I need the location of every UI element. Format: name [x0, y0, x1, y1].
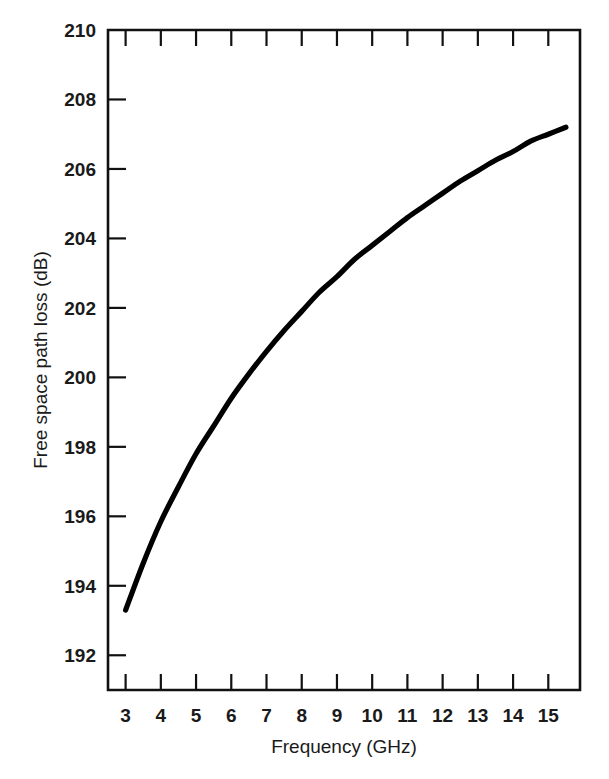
x-tick-label-15: 15 [538, 705, 560, 726]
x-axis-tick-labels: 3456789101112131415 [120, 705, 559, 726]
x-tick-label-8: 8 [296, 705, 307, 726]
x-tick-label-11: 11 [397, 705, 418, 726]
x-tick-label-12: 12 [432, 705, 453, 726]
x-tick-label-4: 4 [156, 705, 167, 726]
x-tick-label-3: 3 [120, 705, 131, 726]
y-tick-label-196: 196 [64, 506, 96, 527]
axis-box [108, 30, 580, 690]
x-axis-ticks [126, 30, 549, 690]
free-space-path-loss-curve [126, 127, 566, 610]
y-axis-tick-labels: 210208206204202200198196194192 [64, 20, 96, 666]
y-tick-label-198: 198 [64, 437, 96, 458]
y-tick-label-208: 208 [64, 89, 96, 110]
y-tick-label-192: 192 [64, 645, 96, 666]
x-tick-label-13: 13 [467, 705, 488, 726]
x-tick-label-9: 9 [332, 705, 343, 726]
figure-container: 210208206204202200198196194192 345678910… [0, 0, 609, 779]
y-tick-label-204: 204 [64, 228, 96, 249]
x-tick-label-7: 7 [261, 705, 272, 726]
x-axis-title: Frequency (GHz) [271, 736, 417, 757]
data-series-group [126, 127, 566, 610]
y-axis-title: Free space path loss (dB) [30, 251, 51, 469]
x-tick-label-14: 14 [503, 705, 525, 726]
x-tick-label-5: 5 [191, 705, 202, 726]
x-tick-label-10: 10 [362, 705, 383, 726]
y-tick-label-210: 210 [64, 20, 96, 41]
y-tick-label-202: 202 [64, 298, 96, 319]
y-tick-label-200: 200 [64, 367, 96, 388]
y-tick-label-206: 206 [64, 159, 96, 180]
x-tick-label-6: 6 [226, 705, 237, 726]
y-axis-ticks [108, 99, 126, 655]
y-tick-label-194: 194 [64, 576, 96, 597]
path-loss-chart: 210208206204202200198196194192 345678910… [0, 0, 609, 779]
plot-frame [108, 30, 580, 690]
